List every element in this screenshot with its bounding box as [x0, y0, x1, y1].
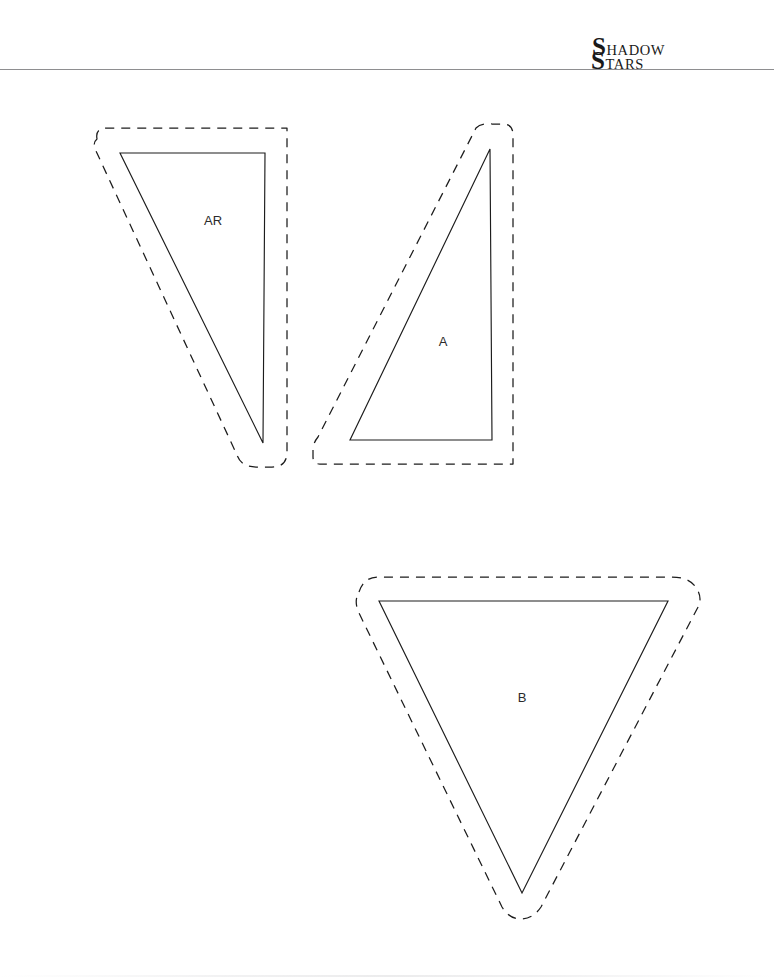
seam-allowance-outline-ar	[94, 128, 287, 467]
seam-allowance-outline-b	[356, 577, 700, 919]
pattern-piece-ar: AR	[94, 128, 287, 467]
piece-label-ar: AR	[204, 213, 222, 228]
seam-allowance-outline-a	[313, 124, 513, 464]
cutting-line-ar	[120, 153, 265, 443]
cutting-line-a	[350, 149, 492, 440]
cutting-line-b	[379, 601, 668, 893]
piece-label-b: B	[518, 690, 527, 705]
pattern-sheet-page: S HADOW S TARS AR A B	[0, 0, 774, 977]
brand-logo-shadow-stars: S HADOW S TARS	[592, 38, 712, 82]
pattern-piece-a: A	[313, 124, 513, 464]
brand-word-stars: TARS	[606, 58, 644, 71]
pattern-drawing-canvas: AR A B	[0, 0, 774, 977]
piece-label-a: A	[439, 334, 448, 349]
brand-initial-s-stars: S	[591, 52, 606, 71]
pattern-piece-b: B	[356, 577, 700, 919]
